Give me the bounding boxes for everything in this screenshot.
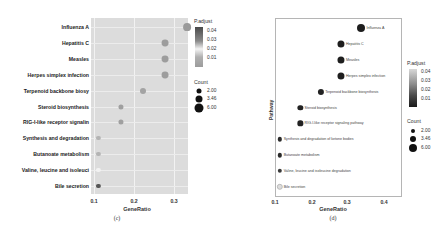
- chart-c-data-point: [140, 88, 146, 94]
- chart-d-x-tick: 0.2: [308, 199, 315, 205]
- chart-c-y-label: Synthesis and degradation: [23, 135, 89, 141]
- chart-c-x-tick: 0.2: [130, 198, 137, 204]
- chart-c-y-label: Influenza A: [62, 24, 89, 30]
- chart-c-legend-color-tick: 0.04: [207, 28, 216, 33]
- chart-d-legend-size-tick: 3.46: [421, 136, 430, 141]
- chart-d-point-label: RIG-I-like receptor signaling pathway: [305, 121, 364, 125]
- chart-c-y-label: Measles: [69, 56, 89, 62]
- chart-d-colorbar: [409, 69, 417, 107]
- chart-d-point-label: Bile secretion: [284, 185, 306, 189]
- chart-d-point-label: Steroid biosynthesis: [305, 106, 337, 110]
- chart-c-y-label: Hepatitis C: [62, 40, 89, 46]
- chart-c-legend-color-title: P.adjust: [194, 18, 212, 24]
- chart-c-legend-color-tick: 0.02: [207, 46, 216, 51]
- chart-c-gridline: [91, 138, 188, 139]
- chart-d-x-tick: 0.3: [343, 199, 350, 205]
- chart-c-gridline: [91, 170, 188, 171]
- chart-c-gridline: [91, 75, 188, 76]
- chart-c-x-axis-title: GeneRatio: [123, 206, 151, 212]
- chart-d-legend-size-tick: 6.00: [421, 145, 430, 150]
- chart-d-legend-size-dot: [411, 129, 415, 133]
- chart-c-y-label: Bile secretion: [55, 183, 89, 189]
- chart-c-gridline: [91, 154, 188, 155]
- chart-d-legend-size-tick: 2.00: [421, 128, 430, 133]
- chart-d-x-axis-title: GeneRatio: [319, 206, 347, 212]
- chart-c-legend-size-tick: 3.46: [207, 96, 216, 101]
- chart-d-legend-size-title: Count: [407, 118, 421, 124]
- chart-d-legend-color-tick: 0.02: [421, 87, 430, 92]
- chart-d-x-tick: 0.1: [271, 199, 278, 205]
- chart-c-legend-size-tick: 6.00: [207, 105, 216, 110]
- chart-c-y-label: Butanoate metabolism: [33, 151, 89, 157]
- chart-c-y-label: Herpes simplex infection: [28, 72, 89, 78]
- chart-c-legend-color-tick: 0.03: [207, 37, 216, 42]
- chart-d-point-label: Herpes simplex infection: [346, 74, 385, 78]
- chart-d-legend-color-title: P.adjust: [407, 60, 425, 66]
- chart-c-y-label: Valine, leucine and isoleuci: [22, 167, 89, 173]
- chart-d-point-label: Synthesis and degradation of ketone bodi…: [284, 137, 354, 141]
- chart-d-data-point: [357, 24, 365, 32]
- chart-c-caption: (c): [114, 215, 121, 221]
- chart-c-legend-size-title: Count: [194, 79, 208, 85]
- chart-c-gridline: [91, 43, 188, 44]
- chart-d-legend-size-dot: [410, 136, 416, 142]
- chart-c-y-label: RIG-I-like receptor signalin: [23, 119, 89, 125]
- chart-c-data-point: [162, 71, 169, 78]
- chart-c-x-tick: 0.3: [170, 198, 177, 204]
- chart-c-gridline: [91, 186, 188, 187]
- chart-c-legend-size-dot: [197, 89, 202, 94]
- chart-d-point-label: Hepatitis C: [346, 42, 364, 46]
- chart-d-caption: (d): [330, 215, 337, 221]
- chart-c-y-label: Steroid biosynthesis: [38, 104, 89, 110]
- chart-c-gridline: [91, 27, 188, 28]
- chart-d-y-axis-title: Pathway: [268, 100, 274, 120]
- chart-c-legend-size-dot: [196, 96, 203, 103]
- chart-d-point-label: Influenza A: [367, 26, 385, 30]
- chart-c-gridline: [91, 122, 188, 123]
- chart-c-data-point: [183, 23, 191, 31]
- chart-d-legend-size-dot: [409, 144, 417, 152]
- chart-c-gridline: [91, 59, 188, 60]
- chart-c-data-point: [162, 55, 169, 62]
- chart-d-point-label: Valine, leucine and isoleucine degradati…: [284, 169, 351, 173]
- chart-c-legend-size-tick: 2.00: [207, 88, 216, 93]
- chart-d-legend-color-tick: 0.01: [421, 96, 430, 101]
- chart-d-legend-color-tick: 0.03: [421, 78, 430, 83]
- chart-d-point-label: Butanoate metabolism: [284, 153, 320, 157]
- chart-d-legend-color-tick: 0.04: [421, 69, 430, 74]
- chart-c-legend-size-dot: [195, 104, 204, 113]
- chart-c-legend-color-tick: 0.01: [207, 55, 216, 60]
- chart-d-x-tick: 0.4: [380, 199, 387, 205]
- chart-d-point-label: Measles: [346, 58, 359, 62]
- chart-c-y-label: Terpenoid backbone biosy: [24, 88, 89, 94]
- chart-c-x-tick: 0.1: [90, 198, 97, 204]
- chart-c-plot-area: [91, 18, 188, 194]
- chart-d-point-label: Terpenoid backbone biosynthesis: [325, 90, 378, 94]
- chart-c-gridline: [91, 107, 188, 108]
- chart-c-colorbar: [195, 27, 203, 67]
- chart-c-data-point: [162, 39, 169, 46]
